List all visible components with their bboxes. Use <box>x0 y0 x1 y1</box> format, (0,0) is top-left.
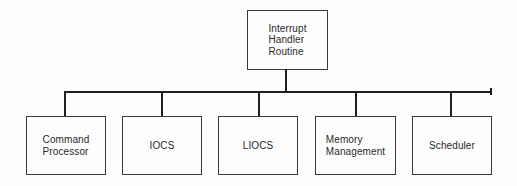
node-label-scheduler: Scheduler <box>429 140 475 152</box>
node-iocs: IOCS <box>122 116 202 175</box>
node-scheduler: Scheduler <box>412 116 492 175</box>
node-label-iocs: IOCS <box>150 140 175 152</box>
node-command-processor: Command Processor <box>26 116 106 175</box>
bus-line <box>64 91 492 93</box>
node-label-interrupt-handler-routine: Interrupt Handler Routine <box>268 23 306 58</box>
connector-iocs <box>161 91 163 117</box>
hierarchy-diagram: Interrupt Handler Routine Command Proces… <box>0 0 517 186</box>
root-connector-line <box>285 69 287 93</box>
node-interrupt-handler-routine: Interrupt Handler Routine <box>247 10 328 70</box>
node-memory-management: Memory Management <box>315 116 396 175</box>
node-label-memory-management: Memory Management <box>326 134 385 157</box>
connector-liocs <box>258 91 260 117</box>
connector-memory-management <box>355 91 357 117</box>
connector-command-processor <box>64 91 66 117</box>
connector-scheduler <box>450 91 452 117</box>
node-label-command-processor: Command Processor <box>43 134 90 157</box>
bus-end-tick <box>490 88 492 95</box>
node-liocs: LIOCS <box>218 116 298 175</box>
node-label-liocs: LIOCS <box>243 140 274 152</box>
